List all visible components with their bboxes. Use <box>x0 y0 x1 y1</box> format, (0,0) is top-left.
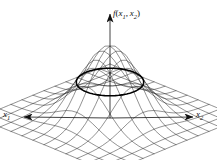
f-axis-label: f(x1, x2) <box>113 9 140 20</box>
mesh-line <box>110 118 217 160</box>
x1-axis-label: x1 <box>3 110 10 121</box>
surface-plot-svg <box>0 0 217 160</box>
figure-container: x1 x2 f(x1, x2) <box>0 0 217 160</box>
mesh-line <box>22 68 154 136</box>
axes-group <box>24 14 193 118</box>
x2-axis-line <box>110 117 193 118</box>
mesh-line <box>0 73 132 127</box>
mesh-line <box>66 68 198 136</box>
x1-axis-line <box>24 117 110 118</box>
surface-mesh <box>0 46 217 160</box>
mesh-line <box>0 113 121 160</box>
x2-axis-label: x2 <box>196 110 203 121</box>
